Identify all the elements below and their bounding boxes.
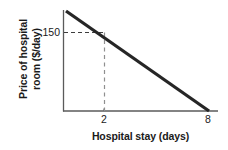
demand-curve-line [66,11,209,111]
y-tick-label-150: 150 [33,26,60,38]
y-axis-title-container: Price of hospital room ($/day) [0,0,58,118]
x-tick-label-8: 8 [200,113,216,125]
chart-figure: Price of hospital room ($/day) Hospital … [0,0,228,150]
x-axis-title: Hospital stay (days) [63,130,218,142]
x-tick-label-2: 2 [96,113,112,125]
y-axis-title-line-1: Price of hospital [17,19,30,99]
